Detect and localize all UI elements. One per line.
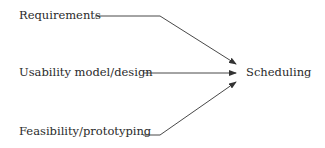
- output-scheduling: Scheduling: [246, 67, 311, 79]
- arrow-requirements: [95, 16, 236, 64]
- input-requirements: Requirements: [19, 10, 101, 22]
- arrow-feasibility: [143, 82, 236, 135]
- input-feasibility-prototyping: Feasibility/prototyping: [19, 126, 151, 138]
- flow-diagram: Requirements Usability model/design Feas…: [0, 0, 325, 148]
- input-usability-model-design: Usability model/design: [19, 67, 153, 79]
